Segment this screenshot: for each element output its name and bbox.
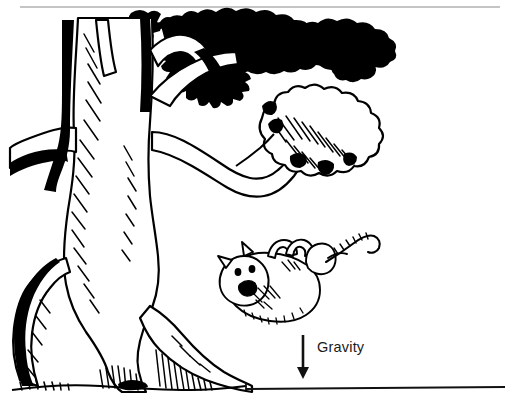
gravity-figure: Gravity xyxy=(0,0,510,414)
cat-eye-right xyxy=(249,265,256,273)
cat-eye-left xyxy=(235,268,242,276)
gravity-label: Gravity xyxy=(317,338,364,356)
cat-falling-illustration xyxy=(0,0,510,414)
